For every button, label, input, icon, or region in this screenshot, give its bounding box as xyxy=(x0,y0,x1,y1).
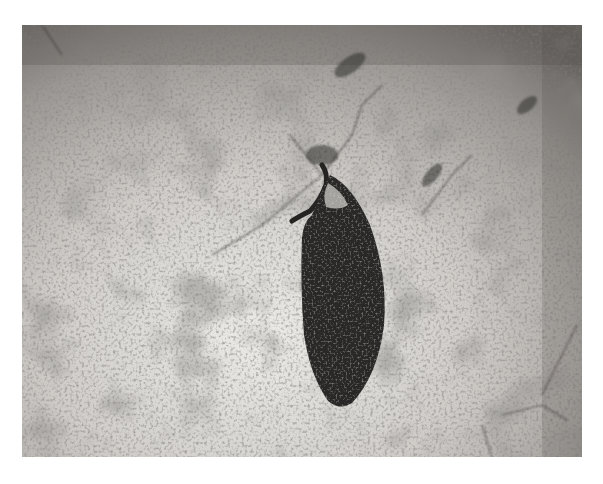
photograph xyxy=(22,25,582,457)
specimen-photo xyxy=(22,25,582,457)
